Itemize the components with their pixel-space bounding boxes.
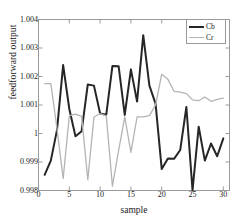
x-tick-label: 30 — [211, 191, 235, 199]
x-tick-label: 20 — [150, 191, 174, 199]
y-axis-title: feedforward output — [8, 2, 18, 122]
x-axis-tick-labels: 051015202530 — [0, 191, 235, 203]
chart-figure: 0.9980.99911.0011.0021.0031.004 05101520… — [0, 0, 235, 224]
x-tick-label: 5 — [57, 191, 81, 199]
series-line-cr — [45, 74, 224, 186]
legend-item-cb: Cb — [187, 21, 227, 32]
y-tick-label: 1 — [10, 130, 38, 138]
legend-line-swatch-cr — [189, 37, 204, 38]
axes-border — [39, 20, 230, 191]
x-tick-label: 15 — [119, 191, 143, 199]
plot-frame — [39, 20, 230, 191]
axis-tick-marks — [39, 20, 230, 191]
y-tick-label: 0.999 — [10, 158, 38, 166]
chart-legend: Cb Cr — [186, 19, 226, 44]
x-tick-label: 0 — [27, 191, 51, 199]
legend-label-cb: Cb — [206, 22, 215, 31]
series-line-cb — [45, 35, 224, 190]
legend-label-cr: Cr — [206, 33, 214, 42]
x-tick-label: 10 — [88, 191, 112, 199]
x-axis-title: sample — [38, 205, 230, 215]
legend-item-cr: Cr — [187, 32, 227, 43]
data-series-group — [45, 35, 224, 190]
legend-line-swatch-cb — [189, 26, 204, 28]
x-tick-label: 25 — [181, 191, 205, 199]
